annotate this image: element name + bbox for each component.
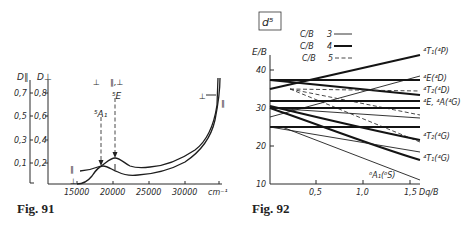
svg-text:15000: 15000	[64, 188, 89, 197]
svg-text:30000: 30000	[172, 188, 197, 197]
svg-text:30: 30	[256, 104, 266, 113]
svg-text:3: 3	[327, 30, 332, 39]
term-4t2-4g: ⁴T₂(⁴G)	[423, 132, 450, 141]
y-axis-perpendicular-label: D⊥	[37, 72, 52, 82]
term-4e-4a-4g: ⁴E, ⁴A(⁴G)	[423, 98, 461, 107]
y-ticks-perpendicular: 0,8 0,6 0,4 0,2	[34, 89, 48, 168]
figure-92: d⁵ C/B 3 C/B 4 C/B 5 E/B 40 30 20 10	[252, 12, 461, 216]
svg-text:C/B: C/B	[300, 30, 314, 39]
figure-caption: Fig. 91	[17, 201, 55, 216]
svg-text:20000: 20000	[100, 188, 125, 197]
figure-91: D∥ 0,7 0,5 0,3 0,1 D⊥ 0,8 0,6 0,4 0,2	[14, 72, 228, 216]
svg-text:10: 10	[256, 180, 266, 189]
term-4t1-4p: ⁴T₁(⁴P)	[423, 47, 449, 56]
svg-text:40: 40	[256, 66, 266, 75]
arrowhead-5e	[113, 152, 118, 158]
svg-text:4: 4	[327, 42, 332, 51]
term-4t1-4g: ⁴T₁(⁴G)	[423, 154, 450, 163]
x-axis-label: Dq/B	[419, 188, 438, 197]
y-axis-parallel-label: D∥	[17, 72, 28, 82]
svg-text:0,3: 0,3	[14, 136, 27, 145]
svg-text:1,0: 1,0	[356, 188, 369, 197]
annotation-curve-par: ∥	[221, 99, 225, 108]
x-ticks: 0,5 1,0 1,5 Dq/B	[309, 180, 438, 197]
annotation-curve-perp: ⊥	[199, 92, 206, 101]
page-figures: D∥ 0,7 0,5 0,3 0,1 D⊥ 0,8 0,6 0,4 0,2	[0, 0, 476, 226]
annotation-5a1: ⁵A₁	[94, 109, 108, 119]
svg-text:5: 5	[328, 54, 333, 63]
svg-text:cm⁻¹: cm⁻¹	[208, 188, 228, 197]
svg-text:0,6: 0,6	[34, 112, 47, 121]
svg-text:0,4: 0,4	[34, 136, 47, 145]
annotation-5e: ⁵E	[112, 91, 122, 101]
annotation-perp-top: ⊥	[93, 78, 100, 87]
annotation-low-perp: ⊥	[70, 177, 77, 186]
x-ticks: 15000 20000 25000 30000 cm⁻¹	[64, 181, 228, 197]
term-4e-4d: ⁴E(⁴D)	[423, 74, 447, 83]
annotation-par-perp-top: ∥,⊥	[110, 78, 124, 87]
svg-text:0,1: 0,1	[14, 159, 27, 168]
term-4t2-4d: ⁴T₂(⁴D)	[423, 86, 450, 95]
svg-text:20: 20	[256, 142, 266, 151]
energy-levels	[270, 55, 420, 180]
legend: C/B 3 C/B 4 C/B 5	[300, 30, 353, 63]
svg-text:C/B: C/B	[300, 42, 314, 51]
svg-text:0,5: 0,5	[14, 112, 27, 121]
svg-text:C/B: C/B	[302, 54, 316, 63]
svg-text:0,8: 0,8	[34, 89, 47, 98]
figure-caption: Fig. 92	[252, 201, 290, 216]
term-labels: ⁴T₁(⁴P) ⁴E(⁴D) ⁴T₂(⁴D) ⁴E, ⁴A(⁴G) ⁴T₂(⁴G…	[369, 47, 461, 180]
svg-text:1,5: 1,5	[404, 188, 417, 197]
svg-text:0,2: 0,2	[34, 159, 47, 168]
y-axis-label: E/B	[252, 47, 267, 57]
term-6a1-6s: ⁶A₁(⁶S)	[369, 171, 395, 180]
svg-text:0,5: 0,5	[309, 188, 322, 197]
svg-text:25000: 25000	[136, 188, 161, 197]
config-label: d⁵	[262, 16, 273, 29]
annotation-low-par: ∥	[70, 165, 74, 174]
svg-text:0,7: 0,7	[14, 89, 28, 98]
